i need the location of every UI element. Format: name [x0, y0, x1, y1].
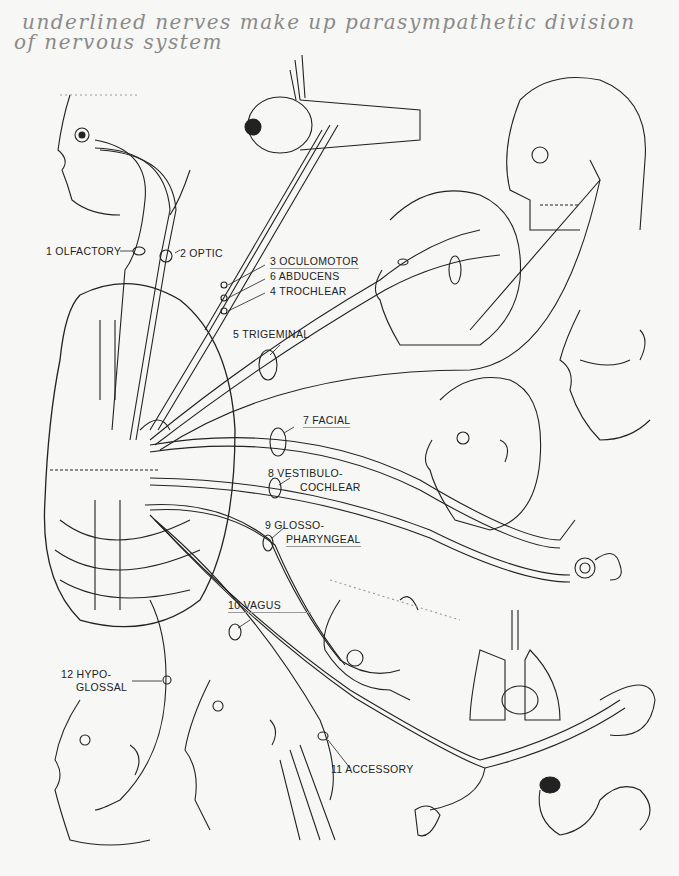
abdominal-organs-drawing [539, 685, 655, 835]
label-vestibulocochlear-line1: 8 VESTIBULO- [268, 467, 343, 479]
label-trochlear: 4 TROCHLEAR [270, 285, 347, 297]
label-vagus: 10 VAGUS [228, 599, 311, 613]
throat-profile-drawing [324, 580, 460, 700]
oral-cavity-drawing [560, 310, 650, 440]
anatomy-illustration [0, 0, 679, 876]
label-vestibulocochlear-line2: COCHLEAR [300, 481, 361, 493]
label-olfactory: 1 OLFACTORY [46, 245, 121, 257]
head-nose-drawing [58, 95, 190, 215]
facial-muscles-head-drawing [425, 378, 540, 531]
label-oculomotor: 3 OCULOMOTOR [270, 255, 359, 269]
label-accessory: 11 ACCESSORY [331, 763, 414, 775]
hypoglossal-head-drawing [55, 700, 150, 845]
label-facial: 7 FACIAL [303, 414, 350, 428]
cranial-nerves-diagram: underlined nerves make up parasympatheti… [0, 0, 679, 876]
face-stippled-drawing [375, 191, 520, 345]
label-glossopharyngeal-line2: PHARYNGEAL [286, 533, 361, 547]
salivary-gland-drawing [415, 806, 440, 836]
label-glossopharyngeal-line1: 9 GLOSSO- [265, 519, 324, 531]
label-hypoglossal-line1: 12 HYPO- [61, 668, 111, 680]
label-optic: 2 OPTIC [180, 247, 223, 259]
label-abducens: 6 ABDUCENS [270, 270, 340, 282]
cochlea-drawing [575, 554, 621, 580]
label-hypoglossal-line2: GLOSSAL [76, 681, 127, 693]
label-trigeminal: 5 TRIGEMINAL [233, 328, 309, 340]
lungs-heart-drawing [470, 610, 560, 720]
eye-drawing [245, 55, 420, 153]
accessory-head-drawing [185, 680, 335, 840]
